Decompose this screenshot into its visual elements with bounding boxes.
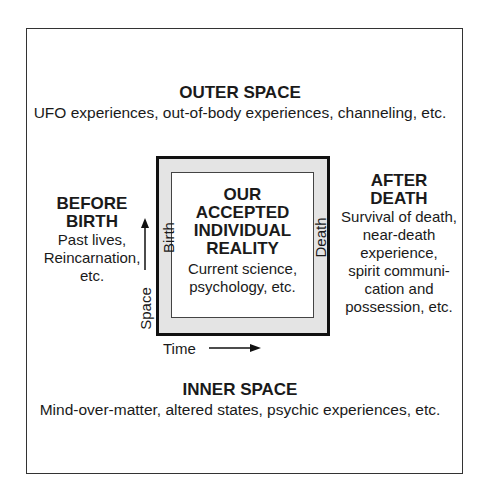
after-death-desc-line: spirit communi- — [334, 262, 464, 280]
after-death-desc-line: experience, — [334, 244, 464, 262]
after-death-block: AFTER DEATH Survival of death, near-deat… — [334, 172, 464, 316]
after-death-desc-line: cation and — [334, 280, 464, 298]
center-title-line: REALITY — [171, 240, 314, 258]
center-block: OUR ACCEPTED INDIVIDUAL REALITY Current … — [171, 186, 314, 296]
after-death-desc-line: near-death — [334, 226, 464, 244]
center-desc-line: psychology, etc. — [171, 278, 314, 296]
center-title-line: INDIVIDUAL — [171, 222, 314, 240]
after-death-desc-line: Survival of death, — [334, 208, 464, 226]
space-arrow-icon — [139, 218, 151, 270]
before-birth-desc-line: Reincarnation, — [36, 249, 148, 267]
center-desc-line: Current science, — [171, 260, 314, 278]
space-label: Space — [137, 284, 154, 334]
birth-label: Birth — [160, 213, 177, 263]
after-death-title-line: DEATH — [334, 190, 464, 208]
death-label: Death — [312, 213, 329, 263]
center-title-line: ACCEPTED — [171, 204, 314, 222]
inner-space-desc: Mind-over-matter, altered states, psychi… — [0, 401, 480, 419]
outer-space-desc: UFO experiences, out-of-body experiences… — [0, 104, 480, 122]
outer-space-title: OUTER SPACE — [0, 83, 480, 103]
center-title-line: OUR — [171, 186, 314, 204]
time-label: Time — [163, 340, 196, 357]
before-birth-desc-line: etc. — [36, 267, 148, 285]
inner-space-title: INNER SPACE — [0, 380, 480, 400]
before-birth-title-line: BEFORE — [36, 195, 148, 213]
time-arrow-icon — [209, 342, 261, 354]
before-birth-title-line: BIRTH — [36, 213, 148, 231]
after-death-title-line: AFTER — [334, 172, 464, 190]
after-death-desc-line: possession, etc. — [334, 298, 464, 316]
before-birth-desc-line: Past lives, — [36, 231, 148, 249]
before-birth-block: BEFORE BIRTH Past lives, Reincarnation, … — [36, 195, 148, 285]
